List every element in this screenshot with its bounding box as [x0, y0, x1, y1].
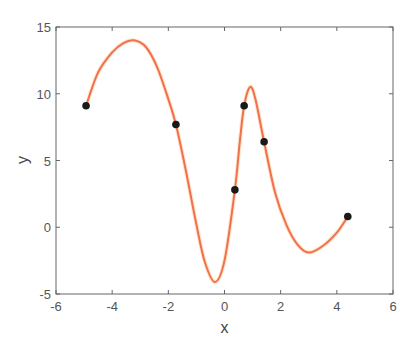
- data-point-marker: [344, 213, 352, 221]
- data-point-marker: [260, 138, 268, 146]
- chart-background: [0, 0, 415, 348]
- x-tick-label: 2: [277, 299, 284, 314]
- y-tick-label: 15: [37, 20, 51, 35]
- x-tick-label: -4: [106, 299, 118, 314]
- data-point-marker: [82, 102, 90, 110]
- data-point-marker: [231, 186, 239, 194]
- y-axis-label: y: [14, 156, 31, 164]
- line-chart: -6-4-20246-5051015 x y: [0, 0, 415, 348]
- x-tick-label: 4: [333, 299, 340, 314]
- x-tick-label: -2: [163, 299, 175, 314]
- x-tick-label: 6: [389, 299, 396, 314]
- x-tick-label: -6: [50, 299, 62, 314]
- data-point-marker: [172, 121, 180, 129]
- y-tick-label: 0: [44, 220, 51, 235]
- y-tick-label: 5: [44, 154, 51, 169]
- x-tick-label: 0: [221, 299, 228, 314]
- y-tick-label: 10: [37, 87, 51, 102]
- data-point-marker: [240, 102, 248, 110]
- y-tick-label: -5: [39, 287, 51, 302]
- x-axis-label: x: [221, 319, 229, 336]
